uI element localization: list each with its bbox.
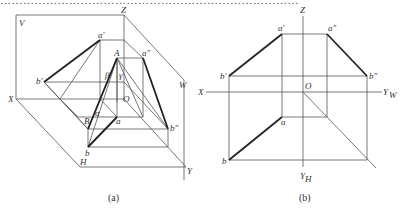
- caption-a: (a): [108, 192, 119, 204]
- label-W: W: [179, 80, 188, 90]
- label-gamma: γ: [119, 70, 123, 80]
- label-Z-b: Z: [300, 5, 306, 15]
- label-b-prime-b: b′: [220, 71, 228, 81]
- line-b-a-b: [229, 117, 282, 160]
- label-Yh-sub: H: [304, 174, 312, 184]
- figure-b-orthographic: Z X O Y W Y H a′ a″ b′ b″ a b (b): [197, 5, 398, 204]
- label-Y: Y: [187, 166, 193, 176]
- line-app-bpp: [143, 58, 168, 129]
- label-B: B: [84, 116, 90, 126]
- y-axis-a: [124, 99, 186, 167]
- label-X-a: X: [7, 94, 14, 104]
- label-a-dprime-a: a″: [142, 48, 151, 58]
- line-bp-ap-b: [229, 34, 282, 76]
- label-beta: β: [104, 70, 110, 80]
- label-X-b: X: [197, 87, 204, 97]
- label-Z-a: Z: [121, 5, 127, 15]
- label-b-b: b: [222, 156, 227, 166]
- label-Yw-sub: W: [389, 90, 398, 100]
- label-V: V: [19, 18, 26, 28]
- label-alpha: α: [95, 108, 100, 118]
- figure-a-pictorial: V Z W X H Y a′ a″ b′ b″ A B a b O α β γ …: [7, 5, 193, 204]
- label-a-prime-b: a′: [278, 23, 286, 33]
- figure-canvas: V Z W X H Y a′ a″ b′ b″ A B a b O α β γ …: [0, 0, 400, 214]
- label-A: A: [113, 48, 120, 58]
- label-b-dprime-b: b″: [369, 71, 378, 81]
- label-b-a: b: [85, 148, 90, 158]
- line-AB: [88, 58, 117, 129]
- label-O-a: O: [123, 94, 130, 104]
- line-ab: [88, 117, 117, 147]
- label-a-prime-a: a′: [98, 30, 106, 40]
- label-b-prime-a: b′: [36, 76, 44, 86]
- line-bp-ap: [44, 40, 100, 82]
- line-app-bpp-b: [327, 34, 367, 76]
- label-H: H: [79, 157, 87, 167]
- caption-b: (b): [299, 192, 311, 204]
- miter-line: [303, 92, 376, 168]
- label-a-b: a: [281, 117, 286, 127]
- label-a-a: a: [116, 116, 121, 126]
- label-O-b: O: [305, 81, 312, 91]
- label-a-dprime-b: a″: [328, 23, 337, 33]
- label-b-dprime-a: b″: [170, 123, 179, 133]
